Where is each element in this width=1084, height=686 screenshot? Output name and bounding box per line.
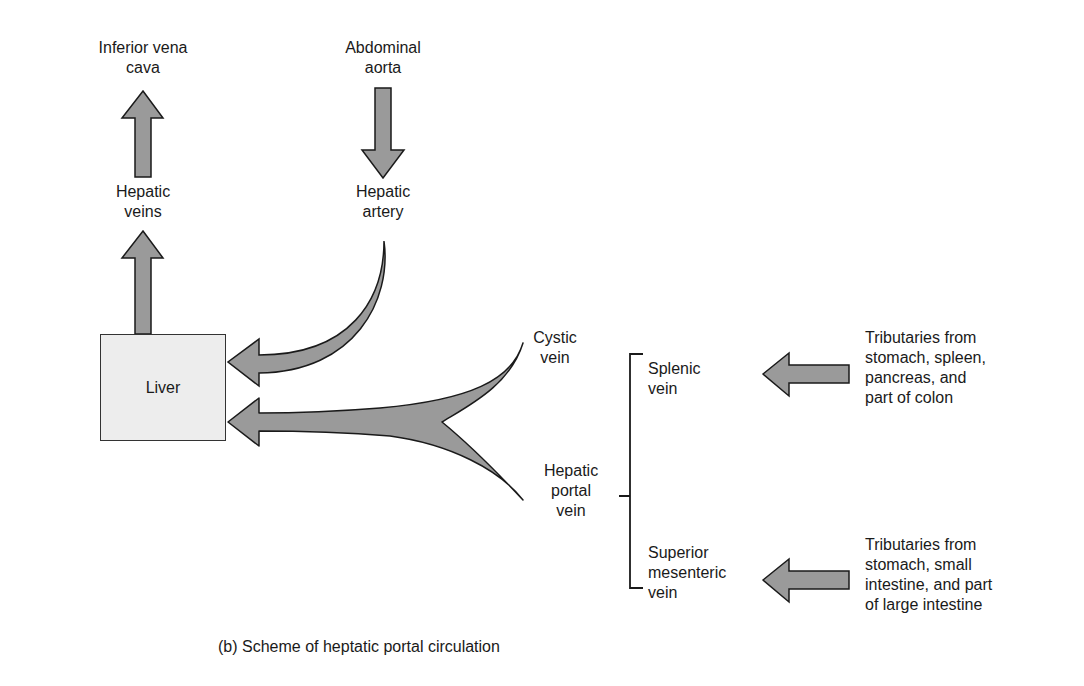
label-hepatic-artery: Hepatic artery — [356, 182, 410, 222]
liver-label: Liver — [146, 379, 181, 397]
liver-box: Liver — [100, 334, 226, 441]
label-cystic-vein: Cystic vein — [533, 328, 577, 368]
figure-caption: (b) Scheme of heptatic portal circulatio… — [218, 637, 500, 657]
arrow-curved-hepatic-artery — [228, 241, 385, 386]
arrow-left-mesenteric — [763, 559, 849, 602]
label-tributaries-splenic: Tributaries from stomach, spleen, pancre… — [865, 328, 986, 408]
label-hepatic-portal-vein: Hepatic portal vein — [544, 461, 598, 521]
label-splenic-vein: Splenic vein — [648, 359, 700, 399]
arrow-left-splenic — [763, 353, 849, 396]
label-inferior-vena-cava: Inferior vena cava — [99, 38, 188, 78]
label-superior-mesenteric-vein: Superior mesenteric vein — [648, 543, 726, 603]
arrow-up-hepatic-veins — [122, 231, 163, 334]
arrow-up-ivc — [122, 91, 163, 177]
label-hepatic-veins: Hepatic veins — [116, 182, 170, 222]
label-tributaries-mesenteric: Tributaries from stomach, small intestin… — [865, 535, 992, 615]
label-abdominal-aorta: Abdominal aorta — [345, 38, 421, 78]
arrow-down-aorta — [362, 88, 404, 178]
bracket — [619, 354, 643, 588]
